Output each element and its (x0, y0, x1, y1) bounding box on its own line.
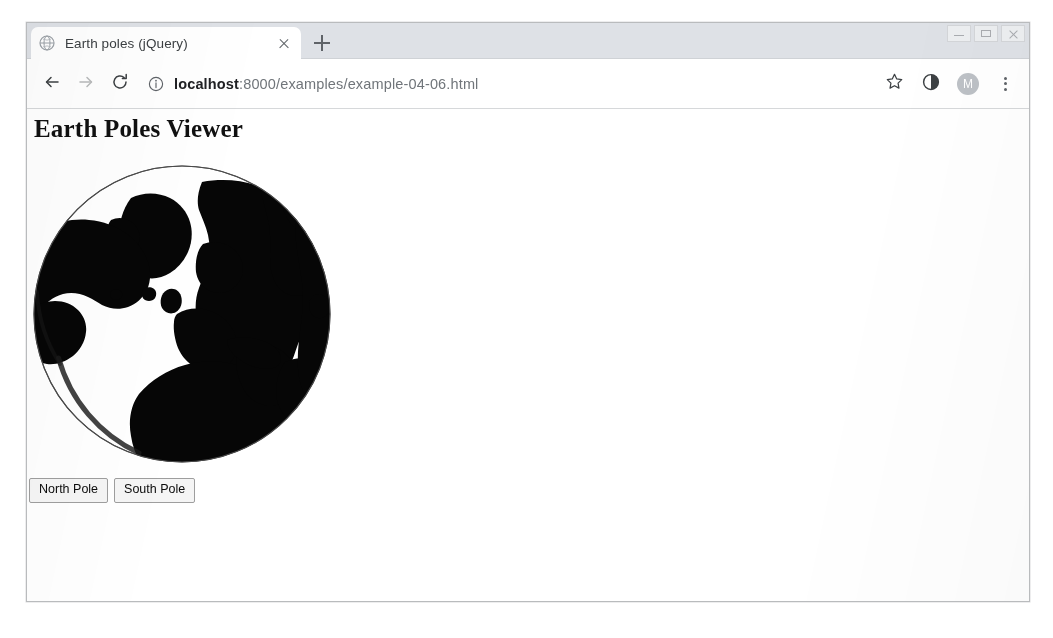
profile-button[interactable]: M (954, 70, 982, 98)
window-minimize-button[interactable] (947, 25, 971, 42)
bookmark-button[interactable] (880, 70, 908, 98)
star-icon (885, 72, 904, 95)
extension-button[interactable] (917, 70, 945, 98)
address-bar[interactable]: localhost:8000/examples/example-04-06.ht… (147, 70, 865, 98)
arctic-island-landmass (110, 289, 122, 300)
orthographic-globe[interactable] (27, 162, 337, 472)
globe-icon (39, 35, 55, 51)
tab-strip: Earth poles (jQuery) (27, 23, 1029, 59)
globe-svg (27, 162, 337, 472)
browser-menu-button[interactable] (991, 70, 1019, 98)
avatar: M (957, 73, 979, 95)
browser-toolbar: localhost:8000/examples/example-04-06.ht… (27, 59, 1029, 109)
window-maximize-button[interactable] (974, 25, 998, 42)
south-pole-button[interactable]: South Pole (114, 478, 195, 503)
iceland-landmass (142, 287, 156, 301)
page-viewport: Earth Poles Viewer (27, 109, 1029, 600)
window-controls (947, 25, 1025, 42)
page-title: Earth Poles Viewer (34, 115, 243, 143)
landmasses (27, 166, 337, 472)
tab-close-icon[interactable] (275, 34, 293, 52)
kebab-menu-icon (995, 74, 1015, 94)
contrast-half-circle-icon (921, 72, 941, 96)
info-circle-icon[interactable] (147, 75, 165, 93)
arrow-right-icon (76, 72, 96, 96)
url-path: :8000/examples/example-04-06.html (239, 76, 479, 92)
reload-icon (110, 72, 130, 96)
url-host: localhost (174, 76, 239, 92)
north-pole-button[interactable]: North Pole (29, 478, 108, 503)
reload-button[interactable] (105, 69, 135, 99)
arrow-left-icon (42, 72, 62, 96)
back-button[interactable] (37, 69, 67, 99)
browser-window: Earth poles (jQuery) (26, 22, 1030, 602)
forward-button[interactable] (71, 69, 101, 99)
pole-button-row: North Pole South Pole (29, 478, 195, 503)
window-close-button[interactable] (1001, 25, 1025, 42)
new-tab-button[interactable] (311, 32, 333, 54)
browser-tab[interactable]: Earth poles (jQuery) (31, 27, 301, 59)
url-text: localhost:8000/examples/example-04-06.ht… (174, 76, 479, 92)
tab-title: Earth poles (jQuery) (65, 36, 269, 51)
